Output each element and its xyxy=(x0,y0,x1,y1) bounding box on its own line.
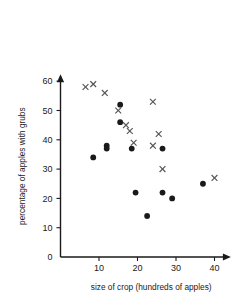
data-point-circle xyxy=(144,213,150,219)
x-tick-label: 30 xyxy=(171,263,181,273)
x-axis-title: size of crop (hundreds of apples) xyxy=(91,282,212,292)
x-axis-arrow xyxy=(223,253,231,260)
data-point-circle xyxy=(200,181,206,187)
data-point-circle xyxy=(169,196,175,202)
data-point-cross xyxy=(150,143,156,149)
data-point-cross xyxy=(131,140,137,146)
data-point-circle xyxy=(117,102,123,108)
data-point-cross xyxy=(115,108,121,114)
axes xyxy=(57,74,231,260)
scatter-chart: 0102030405060 10203040 size of crop (hun… xyxy=(0,0,245,301)
data-point-cross xyxy=(156,131,162,137)
data-point-circle xyxy=(160,190,166,196)
data-point-circle xyxy=(90,154,96,160)
x-tick-label: 20 xyxy=(132,263,142,273)
data-point-cross xyxy=(160,166,166,172)
data-point-circle xyxy=(104,146,110,152)
data-point-circle xyxy=(160,146,166,152)
x-tick-label: 10 xyxy=(94,263,104,273)
data-point-cross xyxy=(102,90,108,96)
data-point-circle xyxy=(129,146,135,152)
y-tick-label: 60 xyxy=(42,76,52,86)
data-point-cross xyxy=(123,122,129,128)
y-tick-label: 20 xyxy=(42,194,52,204)
data-point-cross xyxy=(212,175,218,181)
data-point-cross xyxy=(90,81,96,87)
y-tick-label: 40 xyxy=(42,135,52,145)
y-tick-label: 50 xyxy=(42,106,52,116)
tick-marks xyxy=(57,81,215,261)
data-point-circle xyxy=(133,190,139,196)
y-tick-label: 0 xyxy=(47,252,52,262)
data-points xyxy=(83,81,218,219)
x-tick-labels: 10203040 xyxy=(94,263,220,273)
data-point-cross xyxy=(150,99,156,105)
y-axis-title: percentage of apples with grubs xyxy=(17,107,27,225)
x-tick-label: 40 xyxy=(209,263,219,273)
data-point-circle xyxy=(117,119,123,125)
y-tick-label: 30 xyxy=(42,164,52,174)
data-point-cross xyxy=(127,128,133,134)
y-tick-label: 10 xyxy=(42,223,52,233)
y-tick-labels: 0102030405060 xyxy=(42,76,52,262)
data-point-cross xyxy=(83,84,89,90)
plot-area: 0102030405060 10203040 size of crop (hun… xyxy=(0,0,245,301)
